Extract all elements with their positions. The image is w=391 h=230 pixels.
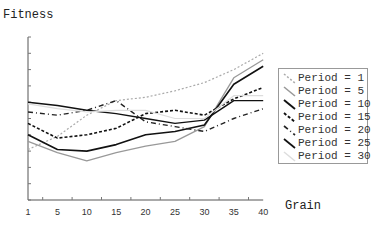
series-line	[28, 101, 263, 124]
x-tick-label: 40	[258, 207, 268, 217]
legend-item-period-15: Period = 15	[283, 111, 367, 124]
series-line	[28, 66, 263, 151]
legend-swatch-icon	[283, 124, 297, 137]
x-tick-label: 15	[111, 207, 121, 217]
legend-item-period-25: Period = 25	[283, 137, 367, 150]
legend-item-period-10: Period = 10	[283, 98, 367, 111]
legend-swatch-icon	[283, 72, 297, 85]
legend-swatch-icon	[283, 150, 297, 163]
x-axis-label: Grain	[285, 199, 321, 213]
x-tick-label: 1	[25, 207, 30, 217]
legend-swatch-icon	[283, 137, 297, 150]
x-tick-label: 20	[141, 207, 151, 217]
legend-item-period-1: Period = 1	[283, 72, 367, 85]
x-tick-label: 25	[170, 207, 180, 217]
legend-item-period-30: Period = 30	[283, 150, 367, 163]
series-line	[28, 88, 263, 139]
legend-item-period-20: Period = 20	[283, 124, 367, 137]
x-tick-label: 35	[229, 207, 239, 217]
x-tick-label: 10	[82, 207, 92, 217]
legend-item-period-5: Period = 5	[283, 85, 367, 98]
x-tick-label: 5	[55, 207, 60, 217]
legend-swatch-icon	[283, 85, 297, 98]
chart-legend: Period = 1 Period = 5 Period = 10 Period…	[278, 68, 368, 164]
legend-swatch-icon	[283, 98, 297, 111]
x-tick-label: 30	[199, 207, 209, 217]
legend-swatch-icon	[283, 111, 297, 124]
